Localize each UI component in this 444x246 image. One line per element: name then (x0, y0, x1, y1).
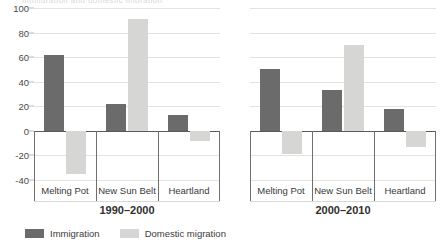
category-band-right: Melting PotNew Sun BeltHeartland (250, 180, 436, 202)
category-label: Melting Pot (34, 180, 96, 202)
bar (384, 109, 404, 131)
period-label-left: 1990–2000 (34, 203, 220, 217)
bar (106, 104, 126, 131)
gridline (34, 155, 220, 156)
bar (190, 131, 210, 141)
gridline (34, 8, 220, 9)
bar (282, 131, 302, 154)
legend-label: Immigration (50, 228, 100, 239)
category-separator (96, 131, 97, 180)
category-label: Melting Pot (250, 180, 312, 202)
y-axis-tick-label: -20 (15, 150, 29, 161)
category-separator (374, 131, 375, 180)
y-axis: 100806040200-20-40 (0, 8, 34, 180)
category-separator (219, 131, 220, 180)
bar (344, 45, 364, 131)
bar (260, 69, 280, 130)
legend-swatch-icon (120, 229, 139, 238)
y-axis-tick-label: 40 (18, 76, 29, 87)
category-separator (250, 131, 251, 180)
migration-chart-figure: Immigration and domestic migration 10080… (0, 0, 444, 246)
bar (44, 55, 64, 131)
category-label: New Sun Belt (312, 180, 374, 202)
legend-label: Domestic migration (145, 228, 226, 239)
gridline (250, 57, 436, 58)
legend-item-immigration[interactable]: Immigration (25, 228, 100, 239)
category-separator (158, 131, 159, 180)
bar (128, 19, 148, 131)
chart-panel-1990-2000 (34, 8, 220, 180)
category-separator (435, 131, 436, 180)
category-separator (34, 131, 35, 180)
y-axis-tick-label: 20 (18, 101, 29, 112)
y-axis-tick-label: 100 (13, 3, 29, 14)
bar (322, 90, 342, 131)
legend-item-domestic[interactable]: Domestic migration (120, 228, 226, 239)
bar (406, 131, 426, 147)
legend-swatch-icon (25, 229, 44, 238)
category-label: Heartland (158, 180, 220, 202)
chart-legend: ImmigrationDomestic migration (25, 226, 226, 240)
y-axis-tick-label: -40 (15, 175, 29, 186)
y-axis-tick-label: 80 (18, 27, 29, 38)
clipped-chart-title: Immigration and domestic migration (22, 0, 162, 3)
bar (66, 131, 86, 174)
category-band-left: Melting PotNew Sun BeltHeartland (34, 180, 220, 202)
y-axis-tick-label: 60 (18, 52, 29, 63)
gridline (34, 33, 220, 34)
chart-panel-2000-2010 (250, 8, 436, 180)
category-label: New Sun Belt (96, 180, 158, 202)
period-label-right: 2000–2010 (250, 203, 436, 217)
gridline (250, 8, 436, 9)
gridline (250, 155, 436, 156)
gridline (250, 33, 436, 34)
category-label: Heartland (374, 180, 436, 202)
category-separator (312, 131, 313, 180)
bar (168, 115, 188, 131)
